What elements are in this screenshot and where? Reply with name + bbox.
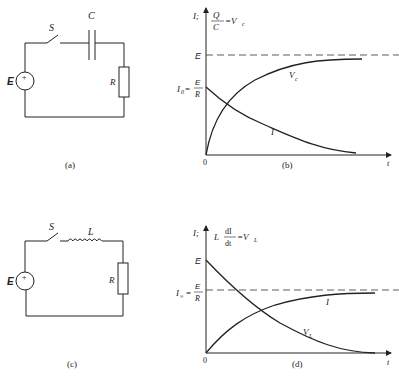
y-axis-label-sub: c bbox=[242, 21, 245, 27]
plus-sign: + bbox=[22, 273, 27, 282]
y-axis-label-suffix: =V bbox=[237, 232, 250, 242]
tick-I0-sub: 0 bbox=[181, 89, 184, 95]
graph-rc bbox=[206, 8, 399, 155]
x-axis-label: t bbox=[387, 159, 390, 168]
wire bbox=[102, 241, 123, 263]
tick-E: E bbox=[195, 256, 202, 266]
resistor-icon bbox=[118, 263, 128, 294]
y-frac-num: Q bbox=[213, 10, 220, 20]
y-axis-label-sub: L bbox=[253, 237, 258, 243]
curve-label-vl-sub: L bbox=[308, 333, 313, 339]
wire bbox=[26, 290, 123, 316]
wire bbox=[95, 43, 124, 67]
caption-d: (d) bbox=[292, 359, 303, 369]
caption-c: (c) bbox=[67, 359, 77, 369]
y-frac-num: dI bbox=[225, 227, 232, 236]
source-label: E bbox=[7, 76, 14, 87]
y-axis-label-prefix: I; bbox=[192, 228, 199, 238]
resistor-label: R bbox=[109, 77, 116, 87]
y-frac-den: C bbox=[213, 22, 220, 32]
plus-sign: + bbox=[22, 73, 27, 82]
tick-E: E bbox=[195, 51, 202, 61]
x-axis-label: t bbox=[387, 358, 390, 367]
capacitor-icon bbox=[89, 30, 95, 60]
tick-Iinf-eq: = bbox=[186, 288, 191, 298]
switch-label: S bbox=[49, 22, 54, 33]
tick-frac-num: E bbox=[195, 78, 201, 87]
switch-label: S bbox=[49, 221, 54, 232]
tick-Iinf-sub: ∞ bbox=[180, 294, 184, 299]
y-axis-label-prefix: I; bbox=[192, 11, 199, 21]
y-axis-L: L bbox=[213, 232, 219, 242]
curve-label-vc-sub: c bbox=[295, 76, 298, 82]
tick-I0-eq: = bbox=[185, 84, 190, 94]
y-axis-label-suffix: =V bbox=[225, 16, 238, 26]
origin-label: 0 bbox=[203, 356, 207, 365]
tick-frac-den: R bbox=[194, 90, 200, 99]
caption-a: (a) bbox=[65, 160, 75, 170]
curve-i bbox=[206, 293, 375, 353]
inductor-icon bbox=[68, 239, 102, 241]
caption-b: (b) bbox=[282, 160, 293, 170]
curve-label-i: I bbox=[325, 297, 330, 307]
circuit-rc bbox=[16, 30, 129, 117]
resistor-icon bbox=[119, 67, 129, 97]
origin-label: 0 bbox=[203, 158, 207, 167]
wire bbox=[25, 43, 47, 72]
figure: S C R E + (a) I; Q C =V c E I 0 = E R 0 … bbox=[0, 0, 399, 376]
curve-vc bbox=[206, 59, 362, 155]
switch-icon bbox=[47, 233, 58, 241]
y-frac-den: dt bbox=[225, 239, 232, 248]
wire bbox=[25, 241, 47, 272]
source-label: E bbox=[7, 276, 14, 287]
curve-i bbox=[206, 87, 356, 153]
inductor-label: L bbox=[87, 226, 94, 237]
wire bbox=[25, 90, 124, 117]
switch-icon bbox=[47, 35, 58, 43]
tick-frac-num: E bbox=[195, 282, 201, 291]
capacitor-label: C bbox=[88, 10, 95, 21]
curve-vl bbox=[206, 260, 375, 353]
resistor-label: R bbox=[108, 275, 115, 285]
tick-frac-den: R bbox=[194, 294, 200, 303]
